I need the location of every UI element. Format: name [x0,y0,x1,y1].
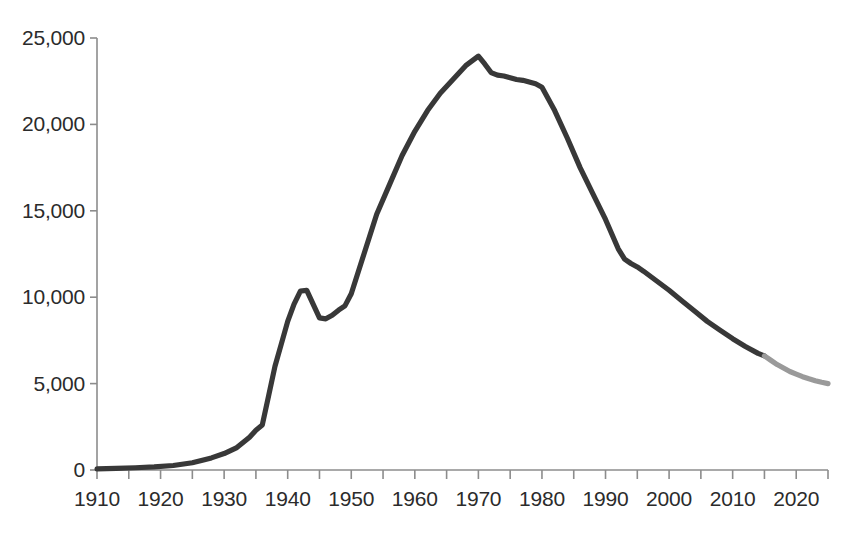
y-axis-tick-label: 25,000 [22,27,85,48]
y-axis-tick-label: 5,000 [33,373,85,394]
y-axis-tick-label: 20,000 [22,113,85,134]
y-axis-tick-label: 15,000 [22,200,85,221]
x-axis-tick-label: 2020 [756,488,836,509]
y-axis-tick-label: 10,000 [22,286,85,307]
series-line-projected [764,356,828,384]
y-axis-tick-label: 0 [74,459,85,480]
axes-group [90,38,828,479]
series-line-actual [97,56,764,469]
series-group [97,56,828,469]
chart-canvas [0,0,851,535]
line-chart: 05,00010,00015,00020,00025,000 191019201… [0,0,851,535]
